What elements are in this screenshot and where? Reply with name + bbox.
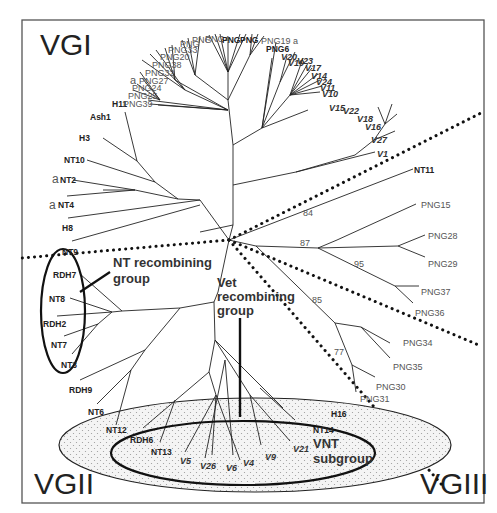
taxon-label: H16 bbox=[331, 409, 347, 419]
nt-recombining-pointer bbox=[80, 272, 110, 292]
bootstrap-value: 85 bbox=[312, 295, 322, 305]
taxon-label: NT2 bbox=[60, 175, 76, 185]
vet-recombining-label-3: group bbox=[217, 303, 254, 318]
taxon-label: V4 bbox=[243, 458, 254, 468]
taxon-label: NT3 bbox=[61, 360, 77, 370]
taxon-label: NT10 bbox=[64, 155, 85, 165]
taxon-label: V27 bbox=[371, 135, 388, 145]
nt-recombining-label-2: group bbox=[113, 271, 150, 286]
taxon-label: NT14 bbox=[313, 425, 334, 435]
taxon-label: V26 bbox=[200, 461, 217, 471]
taxon-label: NT8 bbox=[49, 294, 65, 304]
vgiii-taxa-labels: NT11 PNG15 PNG28 PNG29 PNG37 PNG36 PNG34… bbox=[360, 165, 458, 404]
vet-recombining-label-1: Vet bbox=[217, 275, 237, 290]
taxon-label: NT11 bbox=[414, 165, 435, 175]
taxon-label: NT6 bbox=[88, 407, 104, 417]
nt-recombining-label-1: NT recombining bbox=[113, 255, 212, 270]
taxon-label: PNG28 bbox=[428, 231, 458, 241]
group-label-vgiii: VGIII bbox=[420, 467, 488, 500]
taxon-label: RDH2 bbox=[43, 319, 66, 329]
bootstrap-values: 84 87 95 85 77 bbox=[300, 208, 364, 357]
vgi-taxa-labels: Ash1 H11 H3 NT10 a NT2 a NT4 H8 NT9 PNG3… bbox=[49, 34, 388, 257]
taxon-label: V5 bbox=[180, 456, 192, 466]
bootstrap-value: 87 bbox=[300, 238, 310, 248]
taxon-label: H8 bbox=[62, 223, 73, 233]
taxon-label-cluster: PNG bbox=[222, 35, 241, 45]
taxon-label: NT7 bbox=[51, 340, 67, 350]
taxon-label-cluster: PNG bbox=[240, 35, 259, 45]
taxon-label: V10 bbox=[322, 89, 338, 99]
taxon-label: PNG35 bbox=[393, 362, 423, 372]
taxon-annotation: a bbox=[52, 172, 59, 186]
taxon-annotation: a bbox=[130, 74, 137, 86]
taxon-label: RDH6 bbox=[130, 435, 153, 445]
taxon-annotation: a bbox=[49, 198, 56, 212]
taxon-label: PNG31 bbox=[360, 394, 390, 404]
taxon-label: PNG37 bbox=[421, 287, 451, 297]
bootstrap-value: 84 bbox=[303, 208, 313, 218]
bootstrap-value: 77 bbox=[334, 347, 344, 357]
taxon-label: NT12 bbox=[106, 425, 127, 435]
taxon-label: V21 bbox=[293, 444, 309, 454]
taxon-label: V1 bbox=[377, 149, 388, 159]
taxon-label: RDH7 bbox=[53, 270, 76, 280]
phylogenetic-tree-figure: VGI VGII VGIII bbox=[0, 0, 497, 513]
vnt-subgroup-label-2: subgroup bbox=[313, 451, 373, 466]
taxon-label: PNG30 bbox=[376, 382, 406, 392]
taxon-label: PNG15 bbox=[421, 200, 451, 210]
taxon-label: PNG34 bbox=[403, 338, 433, 348]
taxon-label: V9 bbox=[265, 452, 276, 462]
taxon-label: Ash1 bbox=[90, 112, 111, 122]
taxon-label: NT9 bbox=[62, 247, 78, 257]
vet-recombining-label-2: recombining bbox=[217, 289, 295, 304]
taxon-label: V16 bbox=[365, 122, 382, 132]
vet-recombining-ellipse bbox=[59, 398, 451, 492]
taxon-label: RDH9 bbox=[69, 385, 92, 395]
group-label-vgi: VGI bbox=[40, 28, 92, 61]
taxon-label: NT13 bbox=[151, 447, 172, 457]
nt-recombining-ellipse bbox=[41, 249, 85, 373]
taxon-label: NT4 bbox=[58, 200, 74, 210]
taxon-label: PNG29 bbox=[428, 259, 458, 269]
group-label-vgii: VGII bbox=[34, 467, 94, 500]
taxon-label: H3 bbox=[79, 133, 90, 143]
vnt-subgroup-label-1: VNT bbox=[313, 436, 339, 451]
taxon-label: PNG36 bbox=[415, 308, 445, 318]
bootstrap-value: 95 bbox=[354, 259, 364, 269]
taxon-label: V6 bbox=[226, 463, 238, 473]
